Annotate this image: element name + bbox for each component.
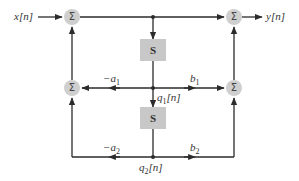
sum-node-output: Σ — [226, 9, 242, 25]
junction-dot-q2 — [151, 155, 155, 159]
state-q1-label: q1[n] — [157, 92, 181, 106]
junction-dot-top — [151, 15, 155, 19]
sum-node-feedback: Σ — [64, 80, 80, 96]
signal-flow-diagram — [0, 0, 299, 181]
output-label: y[n] — [266, 11, 285, 22]
delay-block-2: S — [140, 107, 166, 129]
coefficient-neg-a2: −a2 — [103, 142, 120, 156]
sum-node-input: Σ — [64, 9, 80, 25]
coefficient-b1: b1 — [190, 73, 200, 87]
sum-node-feedforward: Σ — [226, 80, 242, 96]
input-label: x[n] — [14, 11, 33, 22]
coefficient-b2: b2 — [190, 142, 200, 156]
junction-dot-q1 — [151, 86, 155, 90]
coefficient-neg-a1: −a1 — [103, 73, 120, 87]
delay-block-1: S — [140, 39, 166, 61]
state-q2-label: q2[n] — [139, 162, 163, 176]
